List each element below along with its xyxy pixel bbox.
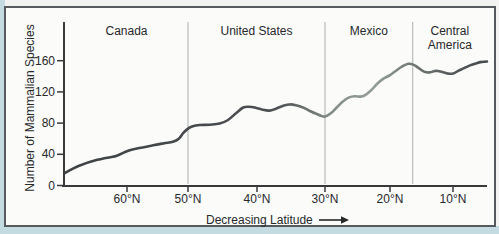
- x-tick-label-20°N: 20°N: [368, 192, 412, 206]
- x-axis-label: Decreasing Latitude: [206, 213, 313, 227]
- y-tick-label-120: 120: [24, 85, 55, 99]
- y-tick-label-0: 0: [24, 179, 55, 193]
- y-axis-label: Number of Mammalian Species: [23, 11, 37, 205]
- figure-container: Number of Mammalian Species Decreasing L…: [0, 0, 499, 234]
- region-label-mexico: Mexico: [307, 24, 431, 38]
- x-tick-label-50°N: 50°N: [166, 192, 210, 206]
- y-tick-label-80: 80: [24, 116, 55, 130]
- x-axis-label-group: Decreasing Latitude: [206, 212, 349, 227]
- y-tick-label-40: 40: [24, 147, 55, 161]
- x-tick-label-30°N: 30°N: [303, 192, 347, 206]
- x-tick-label-60°N: 60°N: [105, 192, 149, 206]
- region-label-central-america: Central America: [414, 24, 486, 52]
- x-tick-label-10°N: 10°N: [431, 192, 475, 206]
- right-arrow-icon: [319, 215, 349, 225]
- region-label-canada: Canada: [65, 24, 189, 38]
- x-tick-label-40°N: 40°N: [235, 192, 279, 206]
- y-tick-label-160: 160: [24, 54, 55, 68]
- region-label-united-states: United States: [195, 24, 319, 38]
- species-curve: [65, 62, 487, 174]
